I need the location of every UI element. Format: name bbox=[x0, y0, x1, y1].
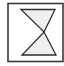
hourglass-icon-button[interactable] bbox=[0, 0, 64, 66]
hourglass-icon bbox=[0, 0, 64, 66]
